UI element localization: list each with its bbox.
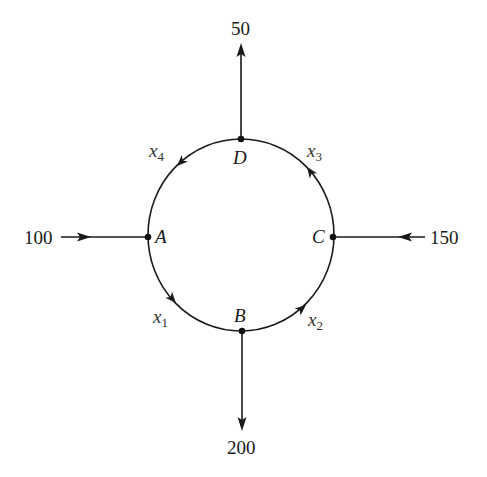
node-c-label: C bbox=[312, 226, 325, 247]
node-a-label: A bbox=[153, 226, 167, 247]
node-d-dot bbox=[238, 136, 245, 143]
flow-x4-label: x4 bbox=[148, 140, 164, 164]
inflow-c-value: 150 bbox=[430, 227, 459, 248]
outflow-d-value: 50 bbox=[231, 18, 250, 39]
flow-x2-label: x2 bbox=[307, 309, 323, 333]
outflow-b-value: 200 bbox=[227, 437, 256, 458]
flow-x3-label: x3 bbox=[306, 140, 322, 164]
node-d-label: D bbox=[232, 147, 247, 168]
node-b-dot bbox=[239, 328, 246, 335]
node-c-dot bbox=[330, 234, 337, 241]
flow-x1-label: x1 bbox=[152, 306, 168, 330]
node-a-dot bbox=[145, 234, 152, 241]
traffic-flow-diagram: A B C D 100 200 150 50 x1 x2 x3 x4 bbox=[0, 0, 487, 477]
node-b-label: B bbox=[234, 305, 246, 326]
inflow-a-value: 100 bbox=[24, 227, 53, 248]
